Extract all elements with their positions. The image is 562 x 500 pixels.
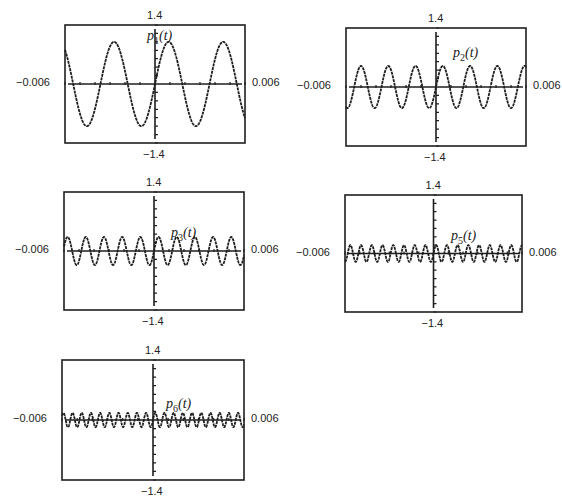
plot-area [0,0,562,500]
function-name: p [166,396,173,411]
function-argument: (t) [178,396,191,411]
x-min-label: −0.006 [13,412,47,424]
y-max-label: 1.4 [145,344,160,356]
function-label-p6: p6(t) [166,396,191,414]
x-max-label: 0.006 [251,412,279,424]
y-min-label: −1.4 [141,485,163,497]
